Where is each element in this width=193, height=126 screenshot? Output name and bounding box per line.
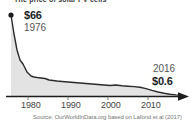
end-value-label: $0.6 [152,76,173,87]
x-tick-label-1990: 1990 [61,101,81,110]
x-tick-label-2010: 2010 [141,101,161,110]
start-point-marker [8,12,13,17]
end-year-label: 2016 [153,64,175,74]
solar-price-chart: The price of solar PV cells $66 1976 201… [0,0,193,126]
start-value-label: $66 [24,10,42,21]
start-year-label: 1976 [24,23,46,33]
x-axis-arrow-icon [178,92,189,101]
x-tick-label-2000: 2000 [101,101,121,110]
source-note: Source: OurWorldInData.org based on Lafo… [33,114,182,120]
x-tick-label-1980: 1980 [21,101,41,110]
